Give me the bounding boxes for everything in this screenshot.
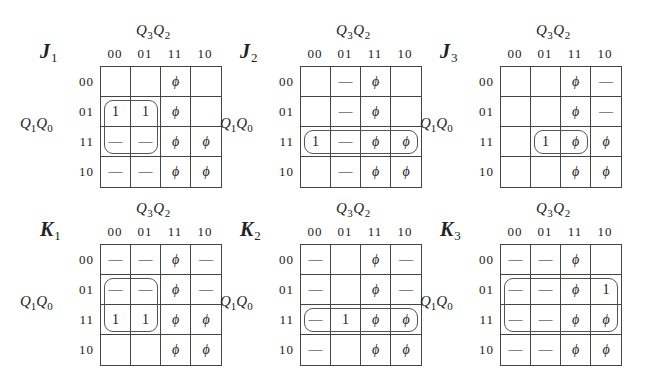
row-header: 01 xyxy=(268,282,294,298)
column-variables-label: Q3Q2 xyxy=(536,22,571,41)
kmap-cell: ϕ xyxy=(391,157,421,187)
row-header: 11 xyxy=(68,134,94,150)
kmap-k2: K2 Q3Q2 Q1Q0 00011110 00011110 —ϕ——ϕ——1ϕ… xyxy=(240,200,440,387)
column-header: 00 xyxy=(100,46,130,62)
kmap-cell: ϕ xyxy=(361,67,391,97)
kmap-cell: ϕ xyxy=(561,335,591,365)
kmap-cell: ϕ xyxy=(561,305,591,335)
kmap-cell: ϕ xyxy=(191,305,221,335)
row-header: 01 xyxy=(268,104,294,120)
kmap-cell: ϕ xyxy=(161,157,191,187)
kmap-cell xyxy=(301,157,331,187)
kmap-cell: — xyxy=(531,335,561,365)
row-header: 11 xyxy=(468,312,494,328)
row-variables-label: Q1Q0 xyxy=(220,293,253,312)
kmap-cell xyxy=(331,335,361,365)
column-header: 00 xyxy=(500,224,530,240)
column-header: 00 xyxy=(300,46,330,62)
kmap-j3: J3 Q3Q2 Q1Q0 00011110 00011110 ϕ—ϕ—1ϕϕϕϕ xyxy=(440,22,640,212)
kmap-cell xyxy=(391,97,421,127)
column-variables-label: Q3Q2 xyxy=(136,200,171,219)
row-header: 10 xyxy=(268,164,294,180)
column-header: 11 xyxy=(360,224,390,240)
kmap-cell: ϕ xyxy=(361,275,391,305)
kmap-cell: 1 xyxy=(301,127,331,157)
column-variables-label: Q3Q2 xyxy=(336,22,371,41)
row-header: 10 xyxy=(468,342,494,358)
row-header: 11 xyxy=(68,312,94,328)
function-name: J2 xyxy=(240,40,258,66)
kmap-cell: — xyxy=(131,245,161,275)
kmap-cell: ϕ xyxy=(191,127,221,157)
kmap-cell: — xyxy=(531,275,561,305)
column-header: 10 xyxy=(590,224,620,240)
kmap-cell xyxy=(591,245,621,275)
column-header: 00 xyxy=(500,46,530,62)
column-header: 10 xyxy=(390,224,420,240)
kmap-cell: — xyxy=(591,97,621,127)
kmap-cell: 1 xyxy=(131,97,161,127)
kmap-cell: — xyxy=(331,127,361,157)
kmap-cell: ϕ xyxy=(591,157,621,187)
kmap-grid: ——ϕ———ϕ—11ϕϕϕϕ xyxy=(100,244,222,366)
kmap-cell: — xyxy=(391,275,421,305)
column-header: 10 xyxy=(590,46,620,62)
row-header: 00 xyxy=(468,252,494,268)
column-header: 00 xyxy=(300,224,330,240)
column-header: 11 xyxy=(560,46,590,62)
kmap-cell: — xyxy=(101,275,131,305)
kmap-cell: ϕ xyxy=(561,67,591,97)
column-variables-label: Q3Q2 xyxy=(336,200,371,219)
row-header: 01 xyxy=(468,282,494,298)
kmap-cell: ϕ xyxy=(561,157,591,187)
row-variables-label: Q1Q0 xyxy=(220,115,253,134)
row-header: 01 xyxy=(68,104,94,120)
kmap-cell: ϕ xyxy=(191,335,221,365)
row-header: 00 xyxy=(468,74,494,90)
kmap-cell xyxy=(531,157,561,187)
column-header: 01 xyxy=(530,46,560,62)
kmap-grid: —ϕ——ϕ——1ϕϕ—ϕϕ xyxy=(300,244,422,366)
kmap-cell: — xyxy=(501,275,531,305)
kmap-cell: — xyxy=(101,157,131,187)
kmap-cell xyxy=(301,97,331,127)
row-header: 00 xyxy=(268,252,294,268)
kmap-cell: 1 xyxy=(101,97,131,127)
column-header: 10 xyxy=(190,224,220,240)
kmap-cell: — xyxy=(131,275,161,305)
kmap-cell: ϕ xyxy=(161,335,191,365)
kmap-cell xyxy=(501,97,531,127)
kmap-cell: — xyxy=(131,127,161,157)
kmap-cell: 1 xyxy=(131,305,161,335)
kmap-cell: ϕ xyxy=(191,157,221,187)
kmap-cell xyxy=(101,67,131,97)
kmap-cell: ϕ xyxy=(561,245,591,275)
kmap-grid: —ϕ—ϕ1—ϕϕ—ϕϕ xyxy=(300,66,422,188)
row-header: 11 xyxy=(268,312,294,328)
kmap-cell: ϕ xyxy=(561,275,591,305)
kmap-cell: ϕ xyxy=(391,335,421,365)
kmap-cell: — xyxy=(131,157,161,187)
column-header: 01 xyxy=(530,224,560,240)
kmap-cell: ϕ xyxy=(591,335,621,365)
kmap-cell: — xyxy=(191,275,221,305)
kmap-cell: — xyxy=(331,157,361,187)
kmap-cell: ϕ xyxy=(391,305,421,335)
kmap-cell: 1 xyxy=(531,127,561,157)
kmap-cell xyxy=(331,275,361,305)
kmap-cell: ϕ xyxy=(591,305,621,335)
kmap-cell: — xyxy=(301,305,331,335)
kmap-j2: J2 Q3Q2 Q1Q0 00011110 00011110 —ϕ—ϕ1—ϕϕ—… xyxy=(240,22,440,212)
kmap-cell: ϕ xyxy=(591,127,621,157)
kmap-cell: — xyxy=(101,127,131,157)
kmap-cell: ϕ xyxy=(561,97,591,127)
kmap-cell: ϕ xyxy=(161,275,191,305)
column-header: 10 xyxy=(190,46,220,62)
kmap-cell xyxy=(501,127,531,157)
column-header: 10 xyxy=(390,46,420,62)
kmap-grid: ϕ—ϕ—1ϕϕϕϕ xyxy=(500,66,622,188)
row-header: 10 xyxy=(68,342,94,358)
kmap-cell xyxy=(131,335,161,365)
column-variables-label: Q3Q2 xyxy=(536,200,571,219)
kmap-cell: ϕ xyxy=(361,305,391,335)
